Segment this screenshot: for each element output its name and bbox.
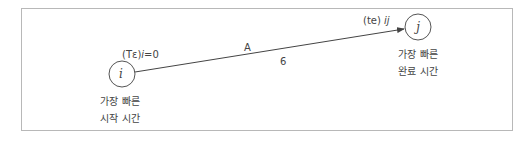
- activity-arrow: [135, 29, 404, 72]
- node-i-caption: 가장 빠른 시작 시간: [100, 93, 140, 127]
- node-j-caption: 가장 빠른 완료 시간: [396, 46, 440, 80]
- node-i: i: [109, 61, 135, 87]
- label-prefix: (Tε): [122, 49, 141, 60]
- caption-line: 시작 시간: [100, 110, 140, 127]
- activity-name-label: A: [244, 42, 251, 54]
- label-suffix: =0: [144, 49, 159, 60]
- network-diagram: i j: [0, 0, 531, 142]
- te-var: ij: [384, 15, 390, 26]
- caption-line: 가장 빠른: [396, 46, 440, 63]
- caption-line: 가장 빠른: [100, 93, 140, 110]
- node-i-earliest-time-label: (Tε)i=0: [122, 49, 159, 61]
- node-j: j: [405, 14, 431, 40]
- activity-duration-te-label: (te) ij: [363, 15, 390, 27]
- activity-duration-label: 6: [280, 56, 286, 68]
- caption-line: 완료 시간: [396, 63, 440, 80]
- te-prefix: (te): [363, 15, 384, 26]
- node-i-label: i: [119, 67, 123, 81]
